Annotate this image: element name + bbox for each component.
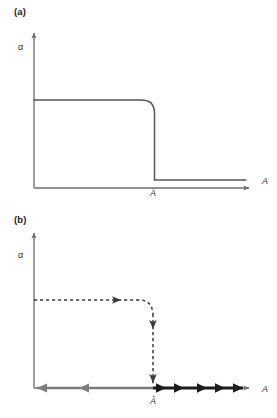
panel-b-flow-right-arrow-3 — [197, 383, 207, 393]
panel-b-flow-left-arrow-2 — [79, 383, 89, 392]
panel-a: (a) α A Ā — [0, 0, 277, 208]
panel-b-trajectory-horizontal — [34, 300, 153, 314]
panel-b-flow-right-arrow-2 — [174, 383, 184, 393]
panel-b-flow-right-arrow-4 — [215, 383, 225, 393]
panel-b-flow-left-arrow-1 — [37, 383, 47, 392]
panel-b-flow-right-arrow-5 — [233, 383, 243, 393]
panel-b: (b) α A Ā — [0, 208, 277, 418]
panel-a-plot — [0, 0, 277, 208]
panel-b-flow-right-arrow-1 — [156, 383, 166, 393]
panel-a-upper-branch-curve — [34, 100, 155, 180]
panel-b-plot — [0, 208, 277, 418]
figure-bifurcation-diagram: (a) α A Ā (b) α A Ā — [0, 0, 277, 418]
